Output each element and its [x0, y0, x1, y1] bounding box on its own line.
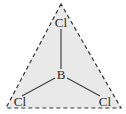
atom-label-cl-bottom-right: Cl [99, 94, 112, 109]
atom-label-cl-top: Cl [55, 15, 68, 30]
bcl3-molecule-diagram: Cl Cl Cl B [0, 0, 126, 114]
atom-label-cl-bottom-left: Cl [14, 94, 27, 109]
atom-label-boron: B [57, 67, 66, 82]
